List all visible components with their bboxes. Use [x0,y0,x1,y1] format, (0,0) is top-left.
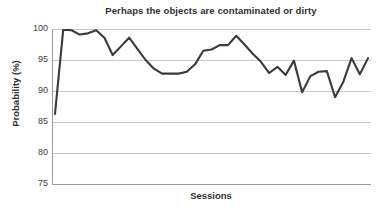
data-line-series-probability [55,30,368,114]
y-axis-tick-label: 75 [22,179,48,188]
y-axis-tick-labels: 1009590858075 [18,0,48,209]
y-axis-tick-label: 85 [22,117,48,126]
y-axis-tick-label: 90 [22,86,48,95]
gridlines [53,30,371,154]
y-axis-tick-label: 80 [22,148,48,157]
y-axis-title: Probability (%) [10,44,21,144]
y-axis-tick-label: 100 [22,24,48,33]
plot-area [52,29,371,185]
y-axis-tick-label: 95 [22,55,48,64]
plot-svg [53,29,371,184]
chart-container: Perhaps the objects are contaminated or … [0,0,388,209]
chart-title: Perhaps the objects are contaminated or … [52,5,370,16]
x-axis-title: Sessions [52,190,370,201]
